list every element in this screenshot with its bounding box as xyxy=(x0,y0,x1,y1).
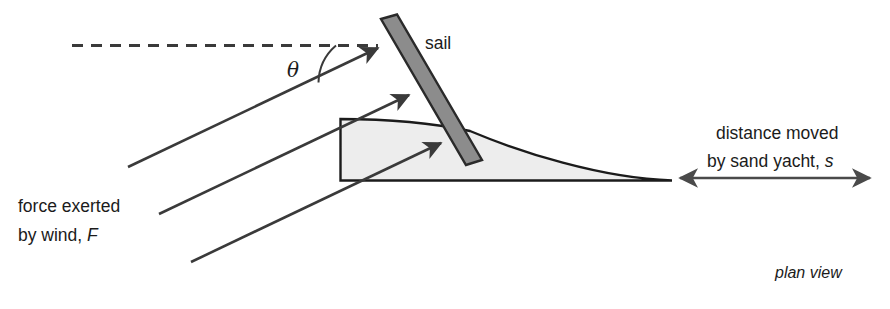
theta-angle-arc xyxy=(319,46,337,83)
plan-view-note: plan view xyxy=(774,264,843,281)
theta-angle-label: θ xyxy=(287,58,299,82)
force-arrow-3 xyxy=(191,143,441,262)
sail-label: sail xyxy=(425,33,451,53)
force-symbol: F xyxy=(87,225,99,245)
force-label-prefix: by wind, xyxy=(18,225,87,245)
sand-yacht-hull xyxy=(341,119,673,181)
distance-label-prefix: by sand yacht, xyxy=(707,151,825,171)
force-label-line2: by wind, F xyxy=(18,225,99,245)
distance-label-line1: distance moved xyxy=(716,123,839,143)
distance-label-line2: by sand yacht, s xyxy=(707,151,834,171)
force-label-line1: force exerted xyxy=(18,196,120,216)
sand-yacht-diagram: sail θ force exerted by wind, F distance… xyxy=(0,0,890,309)
distance-symbol: s xyxy=(825,151,834,171)
diagram-canvas: sail θ force exerted by wind, F distance… xyxy=(0,0,890,309)
